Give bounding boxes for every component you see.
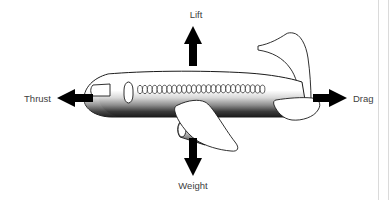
aircraft-illustration (84, 33, 320, 151)
weight-label: Weight (178, 180, 208, 191)
forces-of-flight-diagram: Lift Thrust Drag Weight (0, 0, 391, 200)
weight-force-arrow (184, 138, 202, 176)
lift-label: Lift (190, 9, 203, 20)
lift-force-arrow (184, 26, 202, 66)
diagram-canvas: Lift Thrust Drag Weight (0, 0, 391, 200)
thrust-label: Thrust (24, 93, 51, 104)
drag-label: Drag (353, 93, 374, 104)
cabin-door-icon (124, 82, 133, 103)
cockpit-window-icon (91, 84, 110, 96)
